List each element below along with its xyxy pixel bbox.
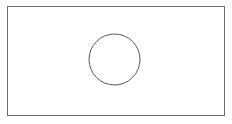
figure-svg — [0, 0, 232, 124]
diagram-canvas — [0, 0, 232, 124]
canvas-background — [0, 0, 232, 124]
